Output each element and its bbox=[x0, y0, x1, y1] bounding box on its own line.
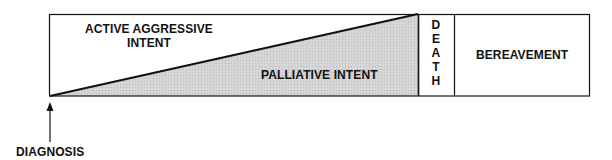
death-letter: H bbox=[430, 74, 442, 88]
diagnosis-arrow-icon bbox=[47, 102, 54, 111]
death-label: D E A T H bbox=[430, 18, 442, 88]
active-label-line1: ACTIVE AGGRESSIVE bbox=[83, 22, 215, 36]
diagnosis-label: DIAGNOSIS bbox=[16, 145, 84, 159]
death-letter: T bbox=[430, 60, 442, 74]
death-letter: A bbox=[430, 46, 442, 60]
active-label-line2: INTENT bbox=[83, 36, 215, 50]
active-aggressive-intent-label: ACTIVE AGGRESSIVE INTENT bbox=[83, 22, 215, 50]
bereavement-label: BEREAVEMENT bbox=[476, 48, 568, 62]
death-letter: D bbox=[430, 18, 442, 32]
death-letter: E bbox=[430, 32, 442, 46]
palliative-intent-label: PALLIATIVE INTENT bbox=[261, 68, 378, 82]
